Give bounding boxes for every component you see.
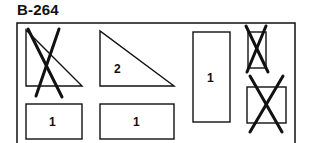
diagram-canvas: 2 1 1 1 <box>0 0 312 143</box>
triangle-2: 2 <box>100 31 174 86</box>
bottom-rect-left: 1 <box>26 104 82 139</box>
square-crossed <box>247 76 286 132</box>
tall-rect-label: 1 <box>207 71 214 85</box>
triangle-crossed <box>26 29 82 97</box>
bottom-rect-mid-label: 1 <box>133 115 140 129</box>
bottom-rect-left-label: 1 <box>49 115 56 129</box>
triangle-2-label: 2 <box>114 62 121 76</box>
bottom-rect-mid: 1 <box>100 104 174 139</box>
small-rect-crossed <box>246 26 268 72</box>
tall-rect: 1 <box>193 32 230 122</box>
